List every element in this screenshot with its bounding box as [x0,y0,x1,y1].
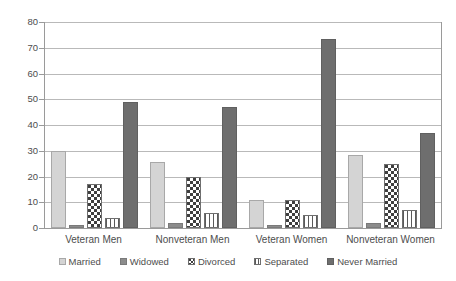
plot-area [44,22,442,229]
bar-group [144,22,243,228]
legend-swatch-icon [120,258,127,265]
y-axis-tick-label: 0 [10,223,38,233]
legend-item[interactable]: Never Married [327,256,397,267]
bar [222,107,237,228]
y-axis-tick-mark [39,177,44,178]
bar [366,223,381,228]
bar-group [243,22,342,228]
y-axis-tick-label: 70 [10,43,38,53]
y-axis-tick-label: 20 [10,172,38,182]
y-axis-tick-mark [39,151,44,152]
legend-item[interactable]: Separated [254,256,308,267]
bar [420,133,435,228]
bar [348,155,363,228]
legend-swatch-icon [188,258,195,265]
x-axis-category-label: Nonveteran Women [341,234,440,245]
bar [51,151,66,228]
legend-item[interactable]: Divorced [188,256,236,267]
legend-label: Never Married [337,256,397,267]
y-axis-tick-mark [39,74,44,75]
bar [249,200,264,228]
y-axis-tick-mark [39,99,44,100]
bar-chart: MarriedWidowedDivorcedSeparatedNever Mar… [0,0,456,281]
bar [285,200,300,228]
y-axis-tick-label: 10 [10,197,38,207]
y-axis-tick-label: 40 [10,120,38,130]
bar [303,215,318,228]
y-axis-tick-label: 30 [10,146,38,156]
bar [105,218,120,228]
bar [321,39,336,228]
legend-item[interactable]: Married [59,256,101,267]
y-axis-tick-mark [39,228,44,229]
legend-label: Separated [264,256,308,267]
legend-swatch-icon [254,258,261,265]
bar [87,184,102,228]
bar-group [45,22,144,228]
bar [402,210,417,228]
bar [168,223,183,228]
bar [186,177,201,229]
bar [123,102,138,228]
legend-swatch-icon [59,258,66,265]
x-axis-category-label: Veteran Women [242,234,341,245]
y-axis-tick-label: 50 [10,94,38,104]
legend-label: Married [69,256,101,267]
bar [69,225,84,228]
bar-group [342,22,441,228]
bar [384,164,399,228]
legend-item[interactable]: Widowed [120,256,169,267]
bar [204,213,219,228]
legend-label: Divorced [198,256,236,267]
legend-swatch-icon [327,258,334,265]
x-axis-category-label: Veteran Men [44,234,143,245]
y-axis-tick-mark [39,202,44,203]
legend-label: Widowed [130,256,169,267]
y-axis-tick-mark [39,48,44,49]
y-axis-tick-mark [39,125,44,126]
x-axis-category-label: Nonveteran Men [143,234,242,245]
y-axis-tick-label: 60 [10,69,38,79]
y-axis-tick-mark [39,22,44,23]
bar [150,162,165,228]
bar [267,225,282,228]
chart-legend: MarriedWidowedDivorcedSeparatedNever Mar… [0,256,456,267]
y-axis-tick-label: 80 [10,17,38,27]
